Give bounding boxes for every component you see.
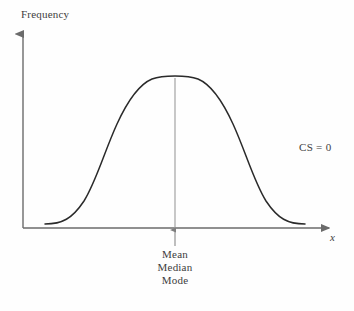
y-axis-label: Frequency [21, 8, 69, 20]
median-label: Median [110, 261, 240, 274]
skewness-annotation: CS = 0 [299, 141, 331, 153]
x-axis-label: x [330, 231, 335, 243]
mean-label: Mean [110, 248, 240, 261]
chart-figure: Frequency x CS = 0 Mean Median Mode [0, 0, 354, 311]
mode-label: Mode [110, 274, 240, 287]
center-measures-labels: Mean Median Mode [110, 248, 240, 287]
